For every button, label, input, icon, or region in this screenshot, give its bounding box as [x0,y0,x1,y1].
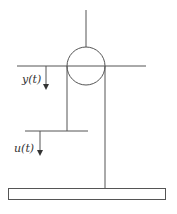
base-platform [9,189,166,200]
pulley-diagram: y(t) u(t) [0,0,177,214]
u-label: u(t) [14,142,34,155]
y-label: y(t) [21,73,41,86]
diagram-canvas: y(t) u(t) [0,0,177,214]
y-arrow-head-icon [43,84,49,90]
u-arrow-head-icon [37,150,43,156]
